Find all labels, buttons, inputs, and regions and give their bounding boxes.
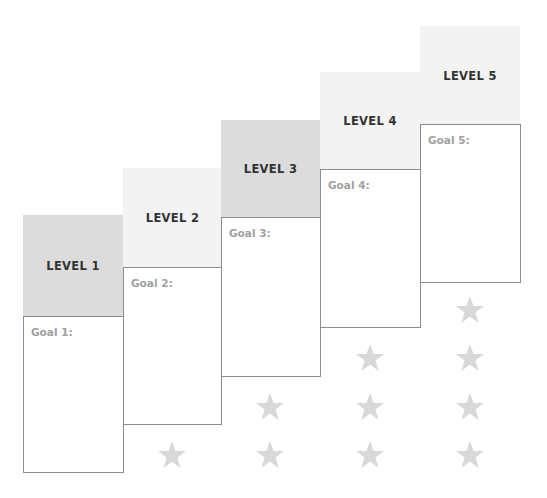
goal-4-box: Goal 4: bbox=[320, 169, 421, 328]
star-icon bbox=[455, 295, 485, 325]
goal-2-box: Goal 2: bbox=[123, 267, 222, 425]
goal-3-box: Goal 3: bbox=[221, 217, 321, 377]
level-1-label: LEVEL 1 bbox=[46, 259, 99, 273]
goal-1-box: Goal 1: bbox=[23, 316, 124, 473]
level-3-label: LEVEL 3 bbox=[244, 162, 297, 176]
star-icon bbox=[355, 392, 385, 422]
level-5-label: LEVEL 5 bbox=[443, 69, 496, 83]
star-icon bbox=[455, 392, 485, 422]
level-4-header: LEVEL 4 bbox=[320, 72, 420, 170]
goal-5-label: Goal 5: bbox=[428, 134, 470, 146]
level-2-label: LEVEL 2 bbox=[146, 211, 199, 225]
goal-1-label: Goal 1: bbox=[31, 326, 73, 338]
goal-4-label: Goal 4: bbox=[328, 179, 370, 191]
star-icon bbox=[157, 440, 187, 470]
goal-3-label: Goal 3: bbox=[229, 227, 271, 239]
star-icon bbox=[255, 440, 285, 470]
goal-5-box: Goal 5: bbox=[420, 124, 521, 283]
level-2-header: LEVEL 2 bbox=[123, 168, 222, 268]
level-3-header: LEVEL 3 bbox=[221, 120, 320, 218]
goal-2-label: Goal 2: bbox=[131, 277, 173, 289]
level-4-label: LEVEL 4 bbox=[343, 114, 396, 128]
star-icon bbox=[455, 440, 485, 470]
star-icon bbox=[355, 440, 385, 470]
level-1-header: LEVEL 1 bbox=[23, 215, 123, 317]
star-icon bbox=[455, 343, 485, 373]
star-icon bbox=[255, 392, 285, 422]
star-icon bbox=[355, 343, 385, 373]
level-5-header: LEVEL 5 bbox=[420, 26, 520, 125]
